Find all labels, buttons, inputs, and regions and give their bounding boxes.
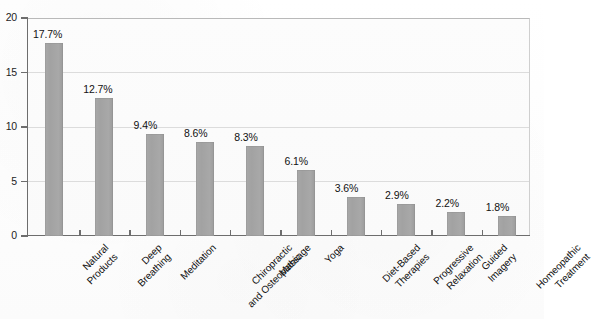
x-axis-tick: [482, 230, 483, 236]
y-axis-tick-label: 10: [1, 120, 17, 132]
bar-value-label: 2.2%: [435, 197, 459, 209]
x-axis-tick: [381, 230, 382, 236]
x-axis-category-label: HomeopathicTreatment: [534, 242, 592, 301]
bar: [447, 212, 465, 236]
x-axis-category-label: NaturalProducts: [75, 242, 120, 287]
category-label-line: Meditation: [178, 242, 219, 283]
x-axis-tick: [129, 230, 130, 236]
bar-value-label: 6.1%: [285, 155, 309, 167]
bar: [146, 134, 164, 236]
bar: [297, 170, 315, 236]
bar: [397, 204, 415, 236]
bar-value-label: 3.6%: [335, 182, 359, 194]
category-label-line: Yoga: [322, 242, 346, 266]
bar-value-label: 1.8%: [486, 201, 510, 213]
x-axis-category-label: Meditation: [178, 242, 219, 283]
x-axis-tick: [331, 230, 332, 236]
bar-value-label: 2.9%: [385, 189, 409, 201]
x-axis-category-label: Diet-BasedTherapies: [380, 242, 432, 294]
y-axis-tick-label: 5: [1, 175, 17, 187]
bar: [95, 98, 113, 236]
bar: [196, 142, 214, 236]
y-axis-tick-label: 0: [1, 229, 17, 241]
bar-value-label: 12.7%: [83, 83, 112, 95]
y-axis-tick-label: 20: [1, 11, 17, 23]
bar: [347, 197, 365, 236]
x-axis-category-label: ProgressiveRelaxation: [431, 242, 485, 296]
y-axis-tick-label: 15: [1, 66, 17, 78]
x-axis-tick: [280, 230, 281, 236]
x-axis-tick: [230, 230, 231, 236]
x-axis-category-label: DeepBreathing: [127, 242, 174, 289]
bar-value-label: 17.7%: [33, 28, 62, 40]
bar-value-label: 9.4%: [134, 119, 158, 131]
bar-value-label: 8.6%: [184, 127, 208, 139]
bar: [246, 146, 264, 236]
x-axis-tick: [431, 230, 432, 236]
x-axis-tick: [79, 230, 80, 236]
bar-value-label: 8.3%: [234, 131, 258, 143]
bar: [498, 216, 516, 236]
gridline: [28, 18, 530, 19]
x-axis-tick: [180, 230, 181, 236]
gridline: [28, 72, 530, 73]
x-axis-category-label: Yoga: [322, 242, 346, 266]
x-axis-category-label: GuidedImagery: [477, 242, 520, 285]
bar: [45, 43, 63, 236]
